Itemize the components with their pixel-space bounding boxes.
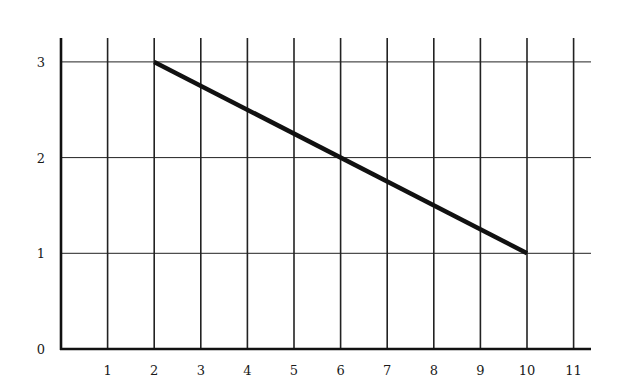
x-tick-label: 5 (290, 363, 298, 378)
horizontal-gridlines (61, 62, 591, 253)
x-tick-label: 1 (103, 363, 111, 378)
vertical-gridlines (108, 38, 574, 349)
y-tick-label: 0 (37, 342, 45, 357)
y-tick-label: 3 (37, 55, 45, 70)
x-tick-label: 9 (476, 363, 484, 378)
x-tick-label: 4 (243, 363, 251, 378)
y-axis-tick-labels: 0123 (37, 55, 45, 357)
line-chart: 1234567891011 0123 (0, 0, 622, 390)
x-tick-label: 8 (430, 363, 438, 378)
x-axis-tick-labels: 1234567891011 (103, 363, 581, 378)
x-tick-label: 2 (150, 363, 158, 378)
x-tick-label: 11 (565, 363, 582, 378)
y-tick-label: 1 (37, 246, 45, 261)
x-tick-label: 3 (197, 363, 205, 378)
y-tick-label: 2 (37, 151, 45, 166)
x-tick-label: 7 (383, 363, 391, 378)
x-tick-label: 10 (519, 363, 536, 378)
x-tick-label: 6 (336, 363, 344, 378)
